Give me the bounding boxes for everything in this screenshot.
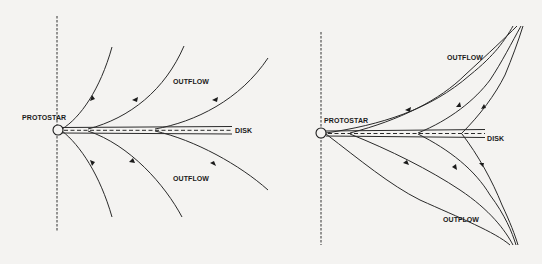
streamline [418, 26, 521, 133]
arrow-icon [405, 107, 411, 112]
protostar-icon [316, 128, 326, 138]
protostar-icon [53, 125, 63, 135]
streamline [88, 131, 182, 217]
streamline [88, 46, 184, 129]
left-diagram: PROTOSTAR DISK OUTFLOW OUTFLOW [22, 16, 268, 232]
streamline [62, 131, 112, 217]
streamline [326, 134, 510, 245]
outflow-bottom-label: OUTFLOW [443, 216, 479, 223]
protostar-label: PROTOSTAR [22, 114, 66, 121]
right-diagram: PROTOSTAR DISK OUTFLOW OUTFLOW [316, 26, 523, 245]
outflow-top-label: OUTFLOW [447, 54, 483, 61]
disk [62, 127, 232, 135]
streamline [155, 131, 268, 190]
arrow-icon [129, 158, 135, 163]
streamline [350, 26, 517, 133]
disk [326, 130, 485, 138]
arrow-icon [210, 161, 216, 166]
streamline [350, 134, 513, 245]
disk-label: DISK [487, 135, 504, 142]
streamline [418, 134, 516, 245]
arrow-icon [212, 97, 218, 102]
streamline [462, 26, 523, 133]
outflow-bottom-label: OUTFLOW [173, 175, 209, 182]
arrow-icon [403, 160, 409, 165]
protostar-label: PROTOSTAR [324, 117, 368, 124]
streamline [62, 47, 112, 129]
arrow-icon [132, 97, 138, 102]
disk-label: DISK [235, 127, 252, 134]
arrow-icon [456, 102, 461, 107]
arrow-icon [481, 104, 486, 109]
arrow-icon [452, 164, 457, 170]
outflow-top-label: OUTFLOW [173, 78, 209, 85]
